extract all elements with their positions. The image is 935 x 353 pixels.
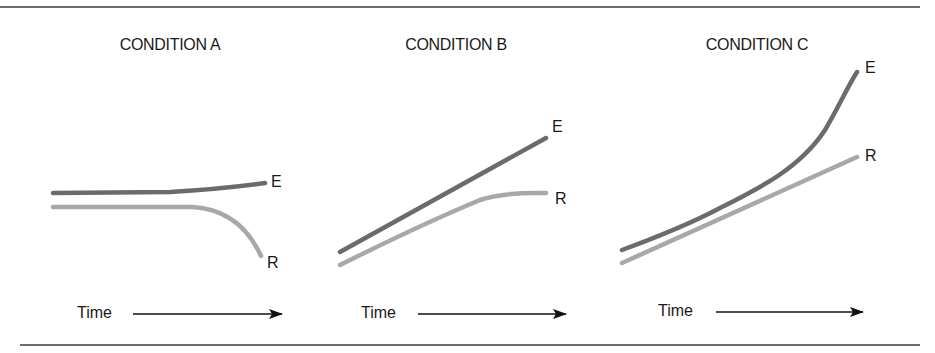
panel-b-time-label: Time — [361, 304, 396, 322]
panel-a-title: CONDITION A — [120, 36, 221, 54]
panel-a-e-label: E — [271, 173, 282, 191]
panel-a-curves — [53, 183, 282, 314]
panel-b-curves — [340, 138, 566, 314]
panel-c-time-label: Time — [658, 302, 693, 320]
panel-c-r-curve — [622, 157, 857, 263]
panel-c-e-curve — [622, 72, 857, 250]
panel-a-r-label: R — [267, 254, 279, 272]
panel-a-r-curve — [53, 207, 261, 256]
panel-c-curves — [622, 72, 863, 312]
panel-b-r-curve — [340, 193, 546, 265]
panel-b-r-label: R — [555, 190, 567, 208]
panel-b-title: CONDITION B — [405, 36, 507, 54]
panel-c-title: CONDITION C — [706, 36, 808, 54]
panel-a-e-curve — [53, 183, 265, 193]
panel-c-r-label: R — [865, 147, 877, 165]
panel-b-e-label: E — [552, 118, 563, 136]
panel-a-time-label: Time — [77, 304, 112, 322]
panel-c-e-label: E — [865, 59, 876, 77]
